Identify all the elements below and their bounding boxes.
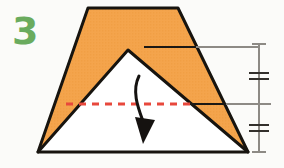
step-number-label: 3: [12, 9, 37, 53]
diagram-canvas: 3: [0, 0, 284, 168]
origami-step-figure: 3: [0, 0, 284, 168]
